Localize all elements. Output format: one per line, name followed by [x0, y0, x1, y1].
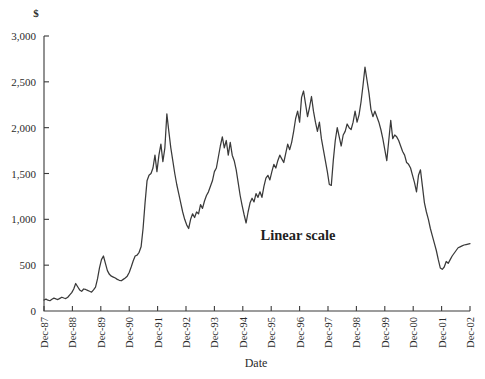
y-axis-tick-labels: 05001,0001,5002,0002,5003,000 [11, 30, 36, 317]
x-axis-tick-label: Dec-02 [465, 317, 476, 348]
x-axis-tick-label: Dec-88 [67, 317, 78, 348]
data-series-line [44, 67, 470, 301]
x-axis-tick-label: Dec-91 [153, 317, 164, 348]
y-axis-tick-label: 3,000 [11, 30, 36, 42]
x-axis-tick-label: Dec-98 [351, 317, 362, 348]
x-axis-tick-label: Dec-95 [266, 317, 277, 348]
axis-frame [44, 36, 470, 311]
x-axis-tick-label: Dec-96 [295, 317, 306, 348]
x-axis-tick-label: Dec-90 [124, 317, 135, 348]
linear-scale-line-chart: $ 05001,0001,5002,0002,5003,000 Dec-87De… [0, 0, 485, 379]
x-axis-tick-label: Dec-87 [39, 317, 50, 348]
x-axis-tick-label: Dec-97 [323, 317, 334, 348]
x-axis-tick-label: Dec-93 [209, 317, 220, 348]
x-axis-title: Date [245, 356, 268, 370]
y-axis-unit-label: $ [33, 7, 39, 19]
x-axis-tick-labels: Dec-87Dec-88Dec-89Dec-90Dec-91Dec-92Dec-… [39, 316, 476, 348]
y-axis-tick-label: 500 [20, 259, 37, 271]
y-axis-tick-label: 2,000 [11, 122, 36, 134]
x-axis-tick-label: Dec-94 [238, 316, 249, 348]
x-axis-tick-label: Dec-01 [437, 317, 448, 348]
y-axis-tick-label: 1,000 [11, 213, 36, 225]
y-axis-tick-label: 0 [31, 305, 37, 317]
chart-canvas: $ 05001,0001,5002,0002,5003,000 Dec-87De… [0, 0, 485, 379]
y-axis-unit-group: $ [33, 7, 39, 19]
y-axis-tick-label: 1,500 [11, 168, 36, 180]
x-axis-tick-label: Dec-89 [96, 317, 107, 348]
linear-scale-annotation: Linear scale [260, 227, 336, 243]
x-axis-tick-label: Dec-00 [408, 317, 419, 348]
y-axis-tick-marks [44, 36, 49, 265]
x-axis-tick-marks [44, 306, 470, 311]
x-axis-tick-label: Dec-99 [380, 317, 391, 348]
y-axis-tick-label: 2,500 [11, 76, 36, 88]
x-axis-tick-label: Dec-92 [181, 317, 192, 348]
